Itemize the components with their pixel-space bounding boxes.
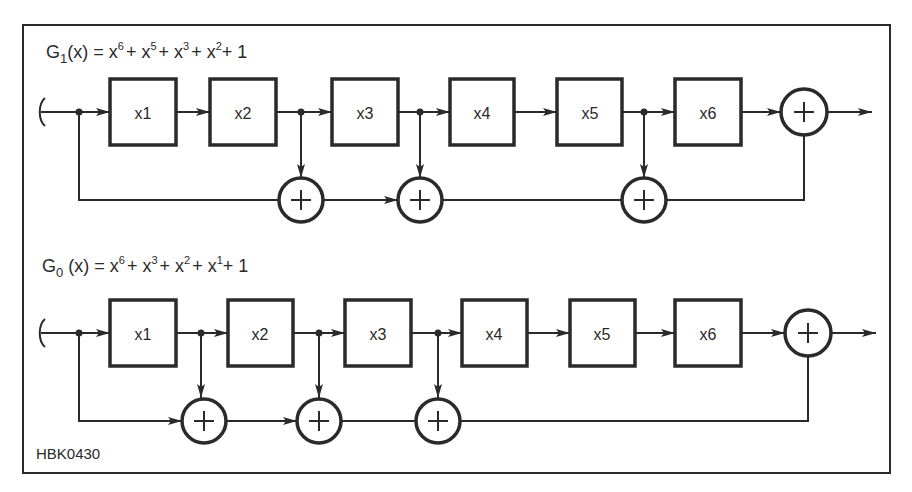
junction-dot xyxy=(435,330,442,337)
g1-polynomial-title: G1(x) = x6+ x5+ x3+ x2+ 1 xyxy=(46,40,247,66)
register-label: x2 xyxy=(235,105,252,122)
junction-dot xyxy=(198,330,205,337)
g0-encoder: G0 (x) = x6+ x3+ x2+ x1+ 1 xyxy=(40,254,876,443)
register-label: x1 xyxy=(135,326,152,343)
register-label: x3 xyxy=(357,105,374,122)
junction-dot xyxy=(76,109,83,116)
junction-dot xyxy=(316,330,323,337)
figure-id-label: HBK0430 xyxy=(36,445,100,462)
junction-dot xyxy=(417,109,424,116)
g1-encoder: G1(x) = x6+ x5+ x3+ x2+ 1 xyxy=(40,40,872,222)
register-label: x4 xyxy=(474,105,491,122)
register-label: x6 xyxy=(700,105,717,122)
register-label: x5 xyxy=(594,326,611,343)
register-label: x3 xyxy=(370,326,387,343)
register-label: x2 xyxy=(252,326,269,343)
register-label: x5 xyxy=(582,105,599,122)
convolutional-encoder-diagram: G1(x) = x6+ x5+ x3+ x2+ 1 xyxy=(0,0,912,492)
junction-dot xyxy=(641,109,648,116)
register-label: x6 xyxy=(700,326,717,343)
junction-dot xyxy=(298,109,305,116)
g0-polynomial-title: G0 (x) = x6+ x3+ x2+ x1+ 1 xyxy=(42,254,248,280)
register-label: x4 xyxy=(486,326,503,343)
junction-dot xyxy=(76,330,83,337)
register-label: x1 xyxy=(135,105,152,122)
